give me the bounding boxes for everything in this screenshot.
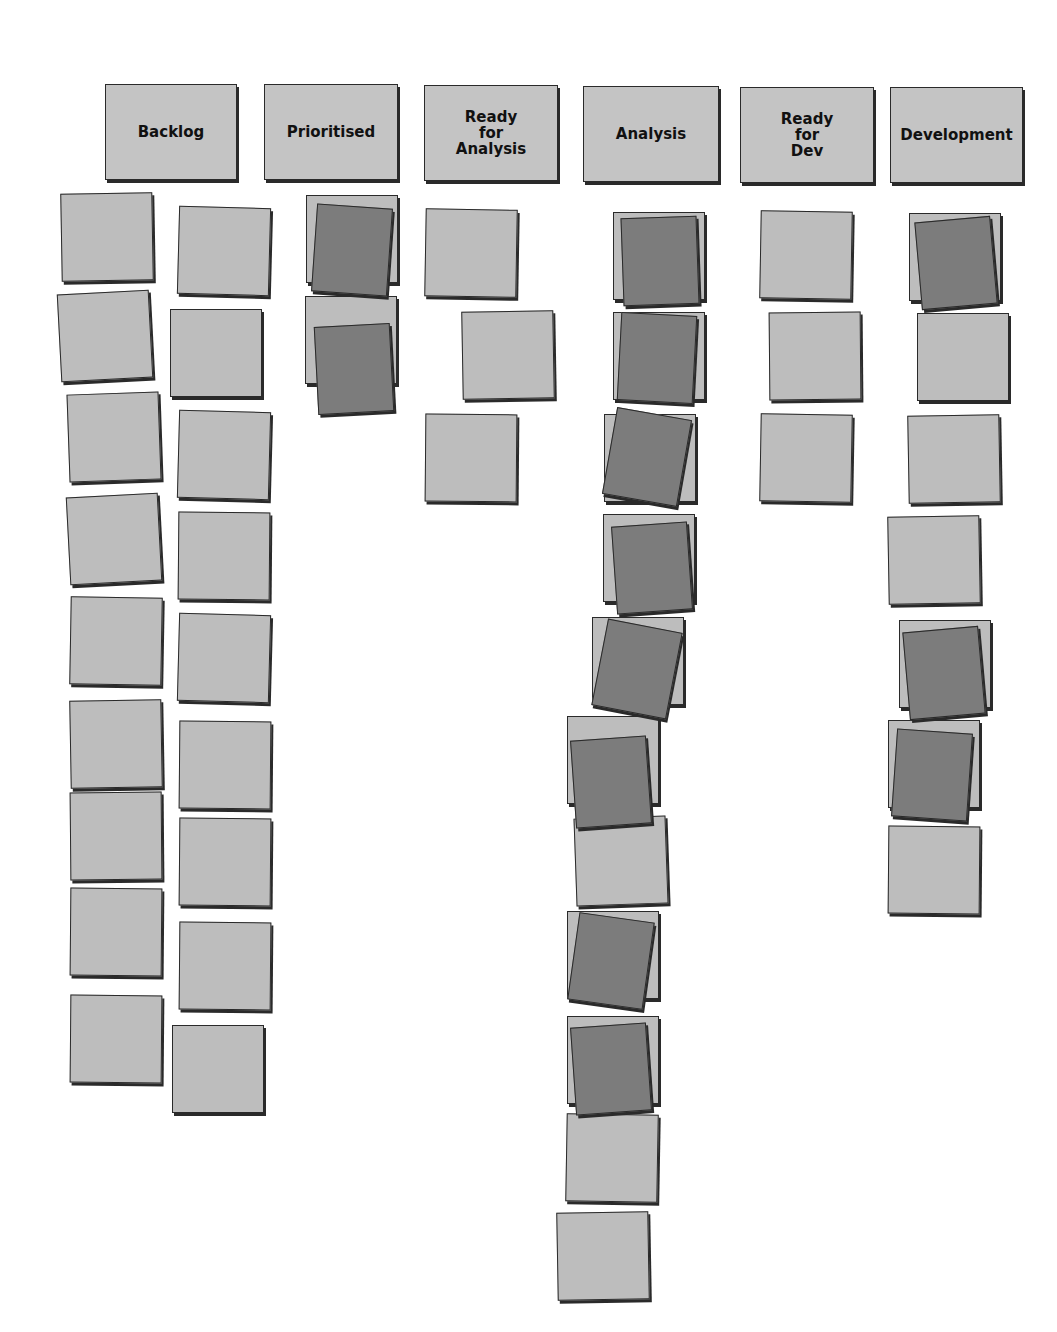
blocked-card [902, 626, 985, 720]
story-card [565, 1113, 659, 1203]
column-header-ready-for-analysis: Ready for Analysis [424, 85, 558, 181]
story-card [57, 290, 153, 383]
story-card [759, 413, 853, 503]
blocked-card [570, 735, 652, 828]
column-header-analysis: Analysis [583, 86, 719, 182]
blocked-card [620, 216, 699, 307]
story-card [170, 309, 262, 397]
blocked-card [567, 912, 655, 1010]
column-header-backlog: Backlog [105, 84, 237, 180]
story-card [769, 312, 862, 401]
story-card [573, 815, 668, 906]
story-card [887, 515, 981, 605]
blocked-card [617, 312, 698, 404]
blocked-card [311, 203, 393, 296]
blocked-card [891, 728, 973, 821]
story-card [177, 206, 271, 296]
story-card [66, 493, 162, 586]
story-card [172, 1025, 264, 1113]
story-card [70, 995, 163, 1084]
story-card [66, 391, 161, 482]
story-card [888, 826, 981, 915]
story-card [179, 818, 272, 907]
story-card [177, 410, 271, 500]
story-card [179, 721, 272, 810]
column-header-ready-for-dev: Ready for Dev [740, 87, 874, 183]
story-card [907, 414, 1001, 504]
story-card [179, 922, 272, 1011]
blocked-card [914, 216, 997, 310]
story-card [425, 414, 518, 503]
story-card [177, 613, 271, 703]
story-card [69, 699, 163, 789]
story-card [759, 210, 853, 300]
story-card [178, 512, 271, 601]
blocked-card [611, 521, 693, 614]
kanban-board: BacklogPrioritisedReady for AnalysisAnal… [0, 0, 1057, 1332]
column-header-development: Development [890, 87, 1023, 183]
story-card [60, 192, 154, 282]
column-header-prioritised: Prioritised [264, 84, 398, 180]
story-card [69, 596, 163, 686]
story-card [424, 208, 518, 298]
story-card [917, 313, 1009, 401]
blocked-card [602, 407, 692, 507]
story-card [70, 888, 163, 977]
story-card [556, 1211, 650, 1301]
blocked-card [570, 1022, 652, 1115]
story-card [461, 310, 555, 400]
story-card [70, 792, 163, 881]
blocked-card [314, 323, 395, 415]
